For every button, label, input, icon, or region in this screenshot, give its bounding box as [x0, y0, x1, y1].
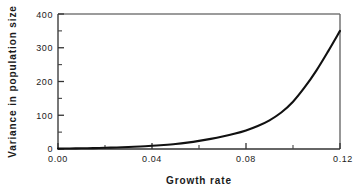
variance-curve	[58, 31, 340, 149]
y-axis-title: Variance in population size	[7, 5, 18, 158]
chart-plot: 0 100 200 300 400 0.00 0.04 0.08 0.12 Gr…	[0, 0, 360, 194]
y-tick-label-200: 200	[36, 77, 53, 87]
y-tick-label-300: 300	[36, 43, 53, 53]
x-tick-label-012: 0.12	[333, 154, 353, 164]
x-tick-label-004: 0.04	[142, 154, 162, 164]
plot-frame	[58, 14, 340, 149]
y-major-ticks	[58, 14, 64, 149]
y-tick-label-100: 100	[36, 111, 53, 121]
y-tick-label-400: 400	[36, 10, 53, 20]
x-tick-label-000: 0.00	[48, 154, 68, 164]
x-axis-title: Growth rate	[166, 175, 232, 186]
x-tick-label-008: 0.08	[236, 154, 256, 164]
figure-canvas: 0 100 200 300 400 0.00 0.04 0.08 0.12 Gr…	[0, 0, 360, 194]
y-tick-label-0: 0	[47, 144, 53, 154]
